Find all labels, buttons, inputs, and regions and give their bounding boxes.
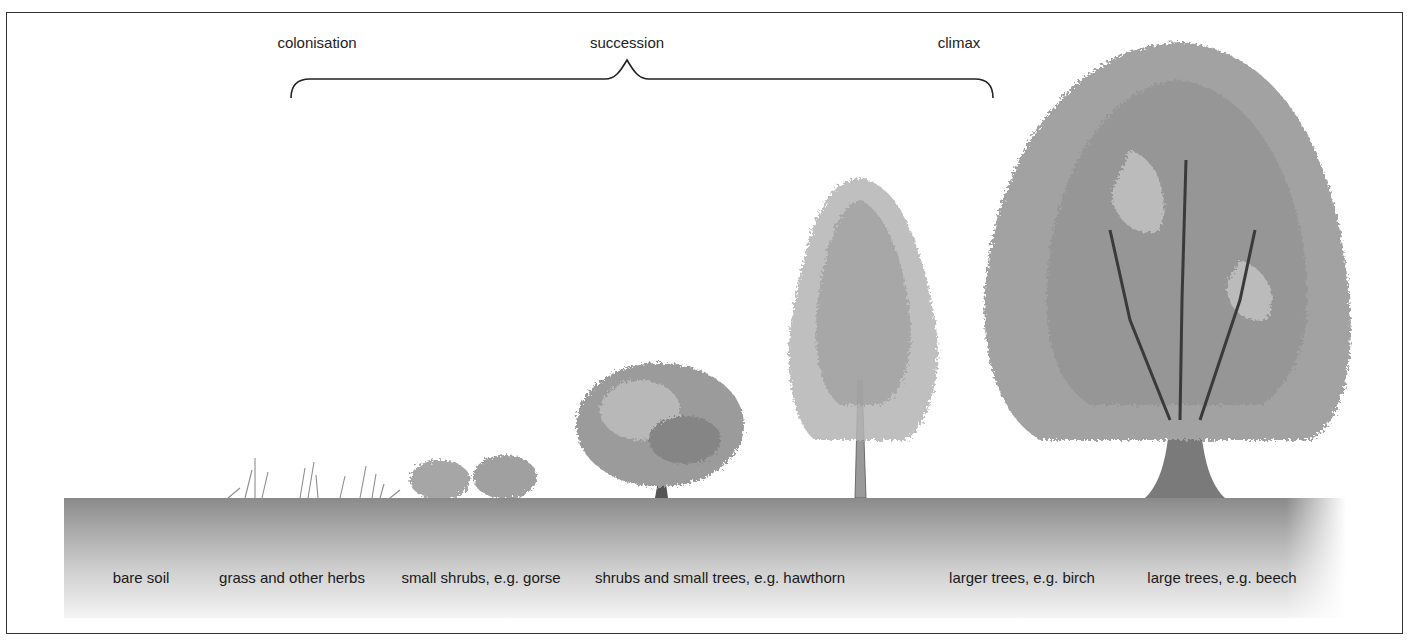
- birch-tree-icon: [789, 178, 938, 498]
- label-small-shrubs: small shrubs, e.g. gorse: [401, 569, 560, 586]
- ground-soil: [64, 498, 1346, 618]
- label-grass-herbs: grass and other herbs: [219, 569, 365, 586]
- hawthorn-tree-icon: [576, 363, 744, 498]
- beech-tree-icon: [984, 42, 1350, 498]
- gorse-shrub-icon: [410, 455, 537, 500]
- label-shrubs-small-trees: shrubs and small trees, e.g. hawthorn: [595, 569, 845, 586]
- label-large-trees: large trees, e.g. beech: [1147, 569, 1296, 586]
- grass-herbs-icon: [228, 458, 400, 498]
- label-bare-soil: bare soil: [113, 569, 170, 586]
- label-larger-trees: larger trees, e.g. birch: [949, 569, 1095, 586]
- succession-plants-illustration: [0, 0, 1407, 510]
